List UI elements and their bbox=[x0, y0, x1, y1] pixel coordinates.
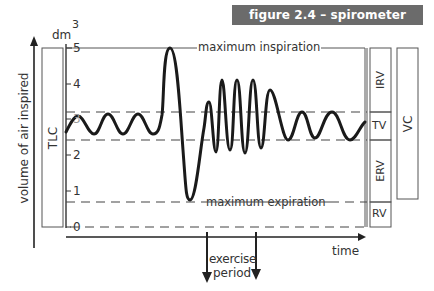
time-axis bbox=[66, 233, 366, 241]
max-inspiration-label: maximum inspiration bbox=[197, 40, 321, 54]
y-tick-1: 1 bbox=[73, 184, 81, 198]
vc-label: VC bbox=[400, 108, 416, 140]
y-tick-2: 2 bbox=[73, 148, 81, 162]
y-tick-0: 0 bbox=[73, 220, 81, 234]
y-unit-text: dm bbox=[52, 28, 71, 42]
y-tick-3: 3 bbox=[73, 112, 81, 126]
y-tick-5: 5 bbox=[73, 41, 81, 55]
rv-label: RV bbox=[372, 207, 387, 220]
max-expiration-label: maximum expiration bbox=[206, 195, 326, 209]
exercise-label-line2: period bbox=[213, 266, 251, 280]
tlc-label: TLC bbox=[45, 123, 61, 153]
y-tick-4: 4 bbox=[73, 77, 81, 91]
y-axis-ticks bbox=[66, 48, 72, 227]
erv-label: ERV bbox=[373, 154, 389, 188]
x-axis-label: time bbox=[332, 244, 359, 258]
spirometer-figure: figure 2.4 – spirometer trace bbox=[0, 0, 434, 291]
spirometer-trace bbox=[66, 48, 365, 200]
y-unit-label: dm bbox=[52, 28, 71, 42]
tv-label: TV bbox=[372, 119, 386, 132]
irv-label: IRV bbox=[373, 64, 389, 96]
exercise-label-line1: exercise bbox=[209, 252, 256, 266]
y-unit-exponent: 3 bbox=[72, 18, 79, 31]
y-axis-label: volume of air inspired bbox=[16, 63, 32, 213]
